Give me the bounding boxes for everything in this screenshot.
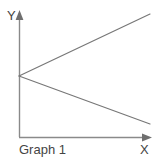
x-axis-label: X <box>140 143 149 156</box>
plot-area <box>0 0 156 162</box>
graph-caption: Graph 1 <box>19 143 66 156</box>
upper-line-series <box>19 14 150 76</box>
x-axis <box>19 134 152 142</box>
x-axis-arrowhead-icon <box>142 134 152 142</box>
data-lines <box>19 14 150 124</box>
lower-line-series <box>19 76 150 124</box>
y-axis <box>16 10 24 137</box>
graph-figure: Y X Graph 1 <box>0 0 156 162</box>
y-axis-arrowhead-icon <box>16 10 24 20</box>
y-axis-label: Y <box>7 9 16 22</box>
